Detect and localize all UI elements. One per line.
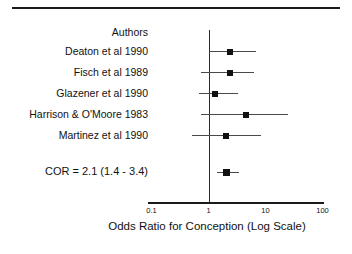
x-axis-tick-label: 10 bbox=[261, 206, 269, 215]
study-label: Glazener et al 1990 bbox=[56, 87, 148, 99]
point-estimate-marker bbox=[227, 49, 233, 55]
point-estimate-marker bbox=[212, 91, 218, 97]
x-axis-tick-label: 1 bbox=[206, 206, 210, 215]
x-axis-tick-label: 100 bbox=[316, 206, 329, 215]
study-label: Fisch et al 1989 bbox=[74, 66, 148, 78]
authors-column-header: Authors bbox=[112, 26, 148, 38]
point-estimate-marker bbox=[243, 112, 249, 118]
study-label: Deaton et al 1990 bbox=[65, 45, 148, 57]
x-axis-tick-label: 0.1 bbox=[146, 206, 156, 215]
forest-plot-figure: Authors Deaton et al 1990Fisch et al 198… bbox=[0, 0, 352, 254]
study-label: Martinez et al 1990 bbox=[59, 129, 148, 141]
x-axis-title-text: Odds Ratio for Conception (Log Scale) bbox=[108, 219, 306, 233]
plot-area: Authors Deaton et al 1990Fisch et al 198… bbox=[0, 0, 352, 254]
null-reference-line bbox=[209, 30, 210, 202]
summary-point-estimate-marker bbox=[223, 169, 230, 176]
point-estimate-marker bbox=[227, 70, 233, 76]
confidence-interval-line bbox=[199, 93, 238, 94]
point-estimate-marker bbox=[223, 133, 229, 139]
summary-estimate-label: COR = 2.1 (1.4 - 3.4) bbox=[45, 165, 148, 177]
x-axis-line bbox=[148, 202, 324, 204]
x-axis-title: Odds Ratio for Conception (Log Scale) bbox=[0, 219, 352, 233]
study-label: Harrison & O'Moore 1983 bbox=[29, 108, 148, 120]
